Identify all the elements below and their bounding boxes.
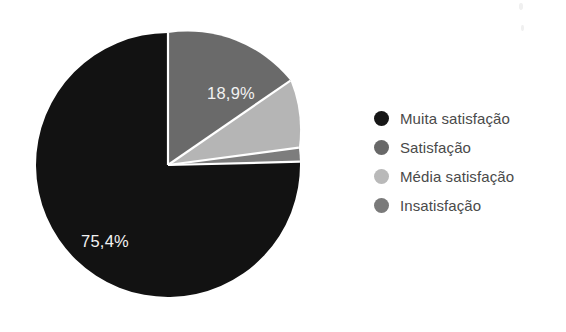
legend-item-muita-satisfacao[interactable]: Muita satisfação: [374, 104, 564, 133]
slice-label-satisfacao: 18,9%: [207, 84, 255, 102]
pie-svg: 18,9% 75,4%: [0, 0, 340, 332]
legend-item-media-satisfacao[interactable]: Média satisfação: [374, 162, 564, 191]
legend-item-satisfacao[interactable]: Satisfação: [374, 133, 564, 162]
legend-swatch-icon: [374, 169, 389, 184]
legend-swatch-icon: [374, 111, 389, 126]
legend-item-insatisfacao[interactable]: Insatisfação: [374, 191, 564, 220]
legend-swatch-icon: [374, 198, 389, 213]
slice-label-muita-satisfacao: 75,4%: [81, 232, 129, 250]
legend-item-label: Insatisfação: [400, 197, 481, 214]
scan-artifact: [521, 25, 524, 31]
legend-item-label: Muita satisfação: [400, 110, 510, 127]
chart-legend: Muita satisfação Satisfação Média satisf…: [374, 104, 564, 220]
legend-item-label: Média satisfação: [400, 168, 514, 185]
pie-chart: 18,9% 75,4%: [0, 0, 340, 332]
legend-swatch-icon: [374, 140, 389, 155]
scan-artifact: [519, 3, 523, 10]
chart-canvas: 18,9% 75,4% Muita satisfação Satisfação …: [0, 0, 566, 332]
legend-item-label: Satisfação: [400, 139, 471, 156]
